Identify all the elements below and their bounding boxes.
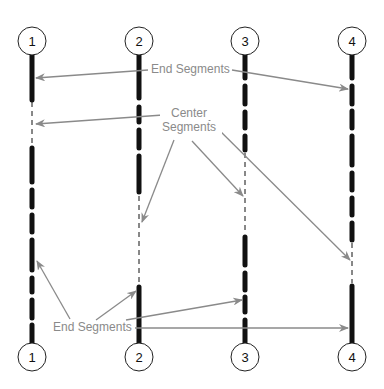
label-center-segments-line2: Segments [156,121,222,134]
top-markers [18,27,366,55]
top-number-4: 4 [348,34,355,49]
arrows-end-segments-bottom [37,261,348,328]
top-number-2: 2 [135,34,142,49]
top-number-1: 1 [28,34,35,49]
label-end-segments-bottom: End Segments [52,321,133,334]
bottom-number-2: 2 [135,350,142,365]
bottom-number-3: 3 [241,350,248,365]
bottom-number-1: 1 [28,350,35,365]
label-center-segments-line1: Center [160,107,218,120]
arrows-center-segments [36,115,350,260]
label-end-segments-top: End Segments [150,63,231,76]
top-number-3: 3 [241,34,248,49]
bottom-markers [18,343,366,371]
bottom-number-4: 4 [348,350,355,365]
